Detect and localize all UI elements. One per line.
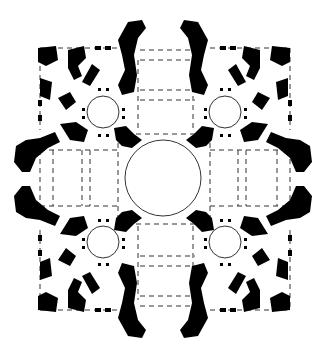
dome-northwest — [87, 96, 119, 128]
central-dome — [125, 140, 201, 216]
plan-drawing — [0, 0, 320, 357]
dome-northeast — [209, 96, 241, 128]
dome-southwest — [87, 226, 119, 258]
dome-southeast — [209, 226, 241, 258]
floor-plan: Centrally planned Greek-cross church pla… — [0, 0, 320, 357]
